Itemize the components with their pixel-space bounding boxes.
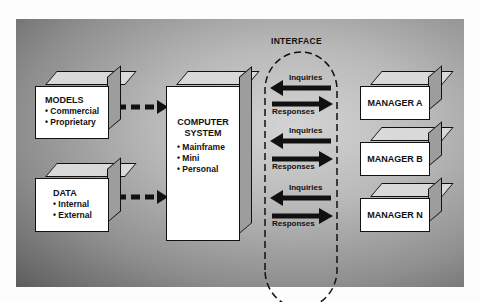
computer-title: COMPUTER	[167, 117, 239, 128]
computer-item: Mini	[177, 153, 239, 164]
manager-a-box: MANAGER A	[360, 71, 450, 123]
data-item: Internal	[53, 199, 108, 210]
manager-label: MANAGER N	[367, 210, 423, 221]
interface-title: INTERFACE	[271, 36, 322, 47]
manager-label: MANAGER B	[367, 154, 423, 165]
manager-n-box: MANAGER N	[360, 183, 450, 235]
responses-label: Responses	[272, 107, 315, 116]
manager-label: MANAGER A	[367, 98, 422, 109]
computer-item: Personal	[177, 164, 239, 175]
inquiries-label: Inquiries	[289, 73, 322, 82]
models-title: MODELS	[45, 95, 108, 106]
data-title: DATA	[53, 188, 108, 199]
computer-item: Mainframe	[177, 142, 239, 153]
manager-b-box: MANAGER B	[360, 127, 450, 179]
responses-label: Responses	[272, 219, 315, 228]
data-box: DATA Internal External	[35, 163, 125, 235]
computer-system-box: COMPUTER SYSTEM Mainframe Mini Personal	[166, 71, 256, 246]
models-item: Commercial	[45, 106, 108, 117]
inquiries-label: Inquiries	[289, 183, 322, 192]
responses-label: Responses	[272, 162, 315, 171]
models-item: Proprietary	[45, 117, 108, 128]
inquiries-label: Inquiries	[289, 126, 322, 135]
data-item: External	[53, 210, 108, 221]
computer-title: SYSTEM	[167, 128, 239, 139]
models-box: MODELS Commercial Proprietary	[35, 71, 125, 143]
